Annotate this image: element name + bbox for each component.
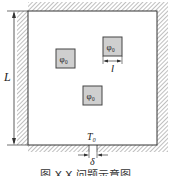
delta-label: δ bbox=[90, 156, 95, 167]
source-center: φ₀ bbox=[83, 86, 102, 105]
source-left-label: φ₀ bbox=[60, 54, 68, 64]
source-left: φ₀ bbox=[56, 49, 75, 68]
left-wall-hatch bbox=[17, 11, 28, 145]
diagram-canvas: L φ₀ φ₀ φ₀ l T₀ δ 图 X-X 问题示意图 bbox=[0, 0, 171, 176]
source-top-right-label: φ₀ bbox=[107, 42, 115, 52]
L-arrow-down-icon bbox=[12, 138, 16, 145]
L-label: L bbox=[3, 70, 11, 84]
source-center-label: φ₀ bbox=[87, 91, 95, 101]
source-top-right: φ₀ bbox=[103, 37, 122, 56]
L-arrow-up-icon bbox=[12, 11, 16, 18]
bottom-wall-hatch-left bbox=[28, 145, 89, 152]
T0-label: T₀ bbox=[87, 131, 97, 142]
domain-boundary bbox=[28, 11, 157, 145]
delta-arrow-right-icon bbox=[97, 154, 102, 157]
right-wall-hatch bbox=[157, 11, 168, 152]
delta-arrow-left-icon bbox=[84, 154, 89, 157]
bottom-wall-hatch-right bbox=[97, 145, 157, 152]
top-wall-hatch bbox=[28, 2, 168, 11]
figure-caption: 图 X-X 问题示意图 bbox=[40, 168, 131, 176]
l-label: l bbox=[111, 62, 114, 74]
